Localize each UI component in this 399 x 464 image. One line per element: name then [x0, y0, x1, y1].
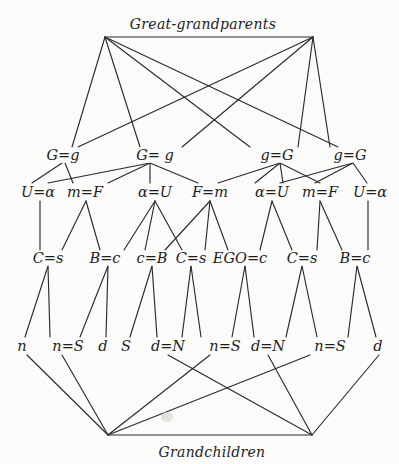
kinship-edge [62, 355, 108, 435]
grandparent-pair-1: G=g [45, 148, 80, 163]
kinship-edge [27, 355, 108, 435]
child-4: S [120, 339, 132, 354]
kinship-edge [191, 266, 201, 337]
kinship-edge [272, 201, 292, 250]
kinship-diagram: Great-grandparents G=g G= g g=G g=G U=α … [0, 0, 399, 464]
child-9: d [372, 339, 383, 354]
kinship-edge [62, 201, 86, 250]
grandparent-pair-2: G= g [135, 148, 175, 163]
kinship-edge [152, 266, 157, 337]
ego-node: EGO=c [212, 251, 268, 266]
kinship-edge [218, 163, 280, 183]
kinship-edge [155, 201, 182, 250]
kinship-edge [48, 266, 50, 337]
kinship-edge [255, 163, 280, 183]
child-pair-2: n=S [51, 339, 84, 354]
kinship-edge [245, 266, 254, 337]
kinship-edge [25, 266, 48, 337]
kinship-edge [232, 266, 245, 337]
kinship-edge [210, 201, 228, 250]
kinship-edge [317, 201, 320, 250]
kinship-edge [205, 201, 210, 250]
kinship-edge [80, 266, 108, 337]
kinship-edge [315, 163, 353, 183]
child-3: d [97, 339, 108, 354]
kinship-edge [313, 37, 330, 147]
child-pair-7: d=N [250, 339, 286, 354]
great-grandparents-label: Great-grandparents [129, 17, 277, 31]
kinship-edge [286, 266, 302, 337]
parent-pair-3: α=U [137, 185, 173, 200]
ego-gen-pair-3: c=B [136, 251, 169, 266]
parent-pair-1: U=α [20, 185, 56, 200]
kinship-connection-lines [0, 0, 399, 464]
kinship-edge [32, 163, 62, 183]
child-1: n [16, 339, 27, 354]
kinship-edge [108, 355, 310, 435]
kinship-edge [280, 163, 353, 183]
kinship-edge [48, 163, 150, 183]
kinship-edge [182, 37, 313, 147]
grandparent-pair-3: g=G [259, 148, 294, 163]
ego-gen-pair-7: B=c [339, 251, 372, 266]
kinship-edge [72, 37, 105, 147]
kinship-edge [280, 163, 283, 183]
kinship-edge [357, 266, 376, 337]
kinship-edge [150, 163, 198, 183]
ego-gen-pair-4: C=s [175, 251, 208, 266]
kinship-edge [302, 266, 317, 337]
child-pair-5: d=N [150, 339, 186, 354]
ego-gen-pair-2: B=c [89, 251, 122, 266]
parent-pair-7: U=α [352, 185, 388, 200]
kinship-edge [86, 201, 100, 250]
kinship-edge [105, 37, 140, 147]
child-pair-6: n=S [208, 339, 241, 354]
kinship-edge [108, 355, 210, 435]
ego-gen-pair-6: C=s [286, 251, 319, 266]
child-pair-8: n=S [313, 339, 346, 354]
kinship-edge [108, 163, 150, 183]
parent-pair-4: F=m [191, 185, 229, 200]
kinship-edge [105, 37, 250, 147]
kinship-edge [298, 37, 313, 147]
kinship-edge [312, 355, 379, 435]
parent-pair-2: m=F [66, 185, 104, 200]
kinship-edge [280, 163, 320, 183]
kinship-edge [130, 266, 152, 337]
kinship-edge [320, 201, 342, 250]
parent-pair-6: m=F [301, 185, 339, 200]
grandchildren-label: Grandchildren [158, 445, 267, 459]
kinship-edge [182, 266, 191, 337]
kinship-edge [106, 266, 108, 337]
kinship-edge [78, 37, 313, 147]
paper-smudge [161, 412, 173, 422]
kinship-edge [260, 201, 272, 250]
parent-pair-5: α=U [254, 185, 290, 200]
kinship-edge [353, 163, 367, 183]
kinship-edge [165, 201, 210, 250]
grandparent-pair-4: g=G [332, 148, 367, 163]
ego-gen-pair-1: C=s [32, 251, 65, 266]
kinship-edge [105, 37, 338, 147]
kinship-edge [348, 266, 357, 337]
